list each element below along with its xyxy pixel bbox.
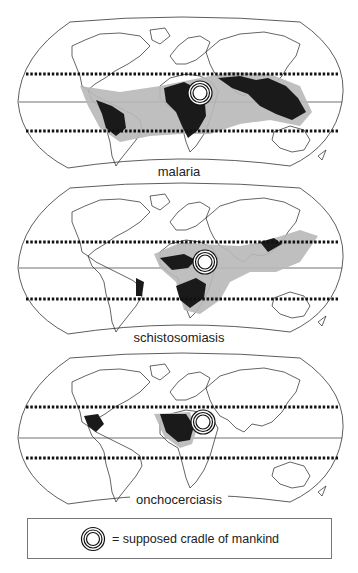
concentric-circles-icon: [80, 526, 106, 552]
map-schistosomiasis: schistosomiasis: [0, 182, 358, 342]
world-map: [0, 352, 358, 512]
cradle-icon: [188, 81, 212, 105]
world-map: [0, 182, 358, 342]
legend-text: = supposed cradle of mankind: [112, 532, 279, 546]
world-map: [0, 16, 358, 176]
map-label: malaria: [0, 164, 358, 179]
map-malaria: malaria: [0, 16, 358, 176]
map-label: schistosomiasis: [0, 330, 358, 345]
map-onchocerciasis: onchocerciasis: [0, 352, 358, 512]
legend: = supposed cradle of mankind: [27, 518, 332, 559]
cradle-icon: [191, 410, 215, 434]
map-label: onchocerciasis: [0, 492, 358, 507]
cradle-icon: [193, 250, 217, 274]
